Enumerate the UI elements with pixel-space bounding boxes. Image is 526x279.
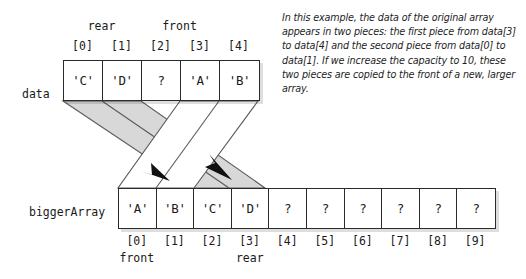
bottom-index-0: [0] bbox=[118, 234, 156, 248]
figure-canvas: [0] [1] [2] [3] [4] rear front data 'C' … bbox=[0, 0, 526, 279]
top-array-data: 'C' 'D' ? 'A' 'B' bbox=[63, 60, 260, 101]
top-array-cell-0: 'C' bbox=[64, 61, 103, 100]
top-array-index-row: [0] [1] [2] [3] [4] bbox=[63, 39, 258, 53]
bottom-index-1: [1] bbox=[156, 234, 194, 248]
bottom-index-5: [5] bbox=[306, 234, 344, 248]
bottom-index-7: [7] bbox=[381, 234, 419, 248]
top-array-front-pointer-label: front bbox=[160, 19, 199, 33]
top-array-cell-1: 'D' bbox=[103, 61, 142, 100]
top-index-0: [0] bbox=[63, 39, 102, 53]
top-index-3: [3] bbox=[180, 39, 219, 53]
top-array-rear-pointer-label: rear bbox=[82, 19, 121, 33]
bottom-index-2: [2] bbox=[193, 234, 231, 248]
top-array-cell-3: 'A' bbox=[181, 61, 220, 100]
bottom-array-cell-5: ? bbox=[307, 189, 345, 228]
top-index-2: [2] bbox=[141, 39, 180, 53]
bottom-array-cell-9: ? bbox=[457, 189, 495, 228]
bottom-array-cell-7: ? bbox=[382, 189, 420, 228]
bottom-index-9: [9] bbox=[456, 234, 494, 248]
bottom-index-6: [6] bbox=[344, 234, 382, 248]
bottom-array-cell-8: ? bbox=[420, 189, 458, 228]
bottom-array-cell-3: 'D' bbox=[232, 189, 270, 228]
bottom-array-cell-6: ? bbox=[345, 189, 383, 228]
bottom-array-cell-1: 'B' bbox=[157, 189, 195, 228]
bottom-array-rear-pointer-label: rear bbox=[231, 251, 269, 265]
bottom-array-cell-4: ? bbox=[269, 189, 307, 228]
bottom-array-index-row: [0] [1] [2] [3] [4] [5] [6] [7] [8] [9] bbox=[118, 234, 494, 248]
bottom-index-8: [8] bbox=[419, 234, 457, 248]
figure-caption-text: In this example, the data of the origina… bbox=[282, 11, 520, 96]
figure-caption: In this example, the data of the origina… bbox=[282, 11, 520, 96]
bottom-array-bigger-array: 'A' 'B' 'C' 'D' ? ? ? ? ? ? bbox=[118, 188, 496, 229]
top-array-cell-2: ? bbox=[142, 61, 181, 100]
bottom-index-3: [3] bbox=[231, 234, 269, 248]
bottom-array-variable-label: biggerArray bbox=[29, 205, 105, 219]
bottom-array-cell-2: 'C' bbox=[194, 189, 232, 228]
top-array-cell-4: 'B' bbox=[220, 61, 259, 100]
bottom-array-front-pointer-label: front bbox=[118, 251, 156, 265]
bottom-array-cell-0: 'A' bbox=[119, 189, 157, 228]
bottom-index-4: [4] bbox=[268, 234, 306, 248]
top-array-variable-label: data bbox=[22, 87, 50, 101]
top-index-4: [4] bbox=[219, 39, 258, 53]
top-index-1: [1] bbox=[102, 39, 141, 53]
